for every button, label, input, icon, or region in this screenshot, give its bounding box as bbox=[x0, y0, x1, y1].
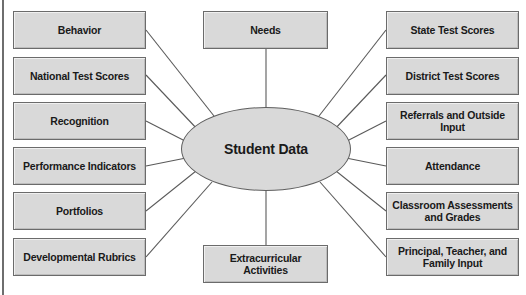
center-node-student-data[interactable]: Student Data bbox=[181, 107, 351, 191]
node-label: Extracurricular Activities bbox=[207, 252, 324, 277]
connector-right-3 bbox=[345, 121, 386, 142]
node-right-referrals-outside-input[interactable]: Referrals and Outside Input bbox=[386, 102, 519, 140]
connector-left-4 bbox=[146, 158, 186, 166]
node-right-classroom-assessments-grades[interactable]: Classroom Assessments and Grades bbox=[386, 192, 519, 230]
node-label: Referrals and Outside Input bbox=[390, 109, 515, 134]
connector-right-6 bbox=[320, 182, 386, 257]
connector-left-5 bbox=[146, 171, 196, 211]
node-label: State Test Scores bbox=[411, 24, 495, 36]
node-label: Principal, Teacher, and Family Input bbox=[390, 245, 515, 270]
connector-right-4 bbox=[346, 158, 386, 166]
connector-right-5 bbox=[336, 171, 386, 211]
node-label: Recognition bbox=[50, 115, 108, 127]
node-label: District Test Scores bbox=[406, 70, 500, 82]
node-right-district-test-scores[interactable]: District Test Scores bbox=[386, 57, 519, 95]
connector-left-3 bbox=[146, 121, 187, 142]
node-label: Performance Indicators bbox=[23, 160, 136, 172]
node-right-principal-teacher-family-input[interactable]: Principal, Teacher, and Family Input bbox=[386, 238, 519, 276]
node-label: Classroom Assessments and Grades bbox=[390, 199, 515, 224]
node-right-state-test-scores[interactable]: State Test Scores bbox=[386, 11, 519, 49]
node-left-national-test-scores[interactable]: National Test Scores bbox=[13, 57, 146, 95]
center-node-label: Student Data bbox=[224, 141, 308, 157]
connector-right-2 bbox=[333, 75, 386, 131]
node-label: Needs bbox=[250, 24, 281, 36]
node-label: Attendance bbox=[425, 160, 480, 172]
node-left-behavior[interactable]: Behavior bbox=[13, 11, 146, 49]
connector-right-1 bbox=[319, 30, 386, 116]
node-left-recognition[interactable]: Recognition bbox=[13, 102, 146, 140]
node-left-developmental-rubrics[interactable]: Developmental Rubrics bbox=[13, 238, 146, 276]
node-right-attendance[interactable]: Attendance bbox=[386, 147, 519, 185]
diagram-canvas: Behavior National Test Scores Recognitio… bbox=[0, 0, 526, 295]
node-label: National Test Scores bbox=[30, 70, 129, 82]
connector-left-2 bbox=[146, 75, 199, 131]
node-top-needs[interactable]: Needs bbox=[203, 11, 328, 49]
node-label: Developmental Rubrics bbox=[23, 251, 136, 263]
node-left-performance-indicators[interactable]: Performance Indicators bbox=[13, 147, 146, 185]
node-bottom-extracurricular-activities[interactable]: Extracurricular Activities bbox=[203, 245, 328, 283]
node-label: Behavior bbox=[58, 24, 101, 36]
node-left-portfolios[interactable]: Portfolios bbox=[13, 192, 146, 230]
node-label: Portfolios bbox=[56, 205, 103, 217]
